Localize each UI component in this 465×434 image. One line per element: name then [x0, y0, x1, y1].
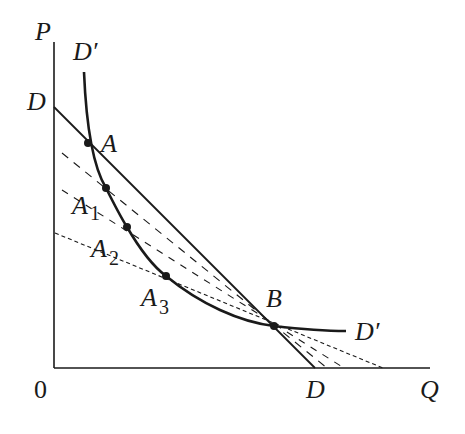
d-prime-label-right: D′ — [354, 317, 380, 346]
demand-diagram: P Q 0 D D D′ D′ A A1 A2 A3 B — [0, 0, 465, 434]
point-a-label: A — [99, 129, 117, 158]
point-a3 — [162, 272, 170, 280]
x-axis-label: Q — [420, 375, 439, 404]
point-a2-label: A2 — [89, 234, 119, 269]
point-a2 — [123, 223, 131, 231]
point-a3-label: A3 — [139, 283, 169, 318]
dashed-line-a2 — [62, 190, 344, 368]
demand-curve-d-prime — [84, 72, 346, 331]
y-axis-label: P — [34, 17, 51, 46]
demand-line-label-bottom: D — [305, 375, 325, 404]
d-prime-label-top: D′ — [72, 37, 98, 66]
point-b — [270, 322, 278, 330]
point-a — [84, 139, 92, 147]
origin-label: 0 — [34, 375, 47, 404]
point-a1 — [102, 184, 110, 192]
point-a1-label: A1 — [70, 191, 100, 224]
point-b-label: B — [266, 284, 282, 313]
demand-line-label-top: D — [26, 87, 46, 116]
